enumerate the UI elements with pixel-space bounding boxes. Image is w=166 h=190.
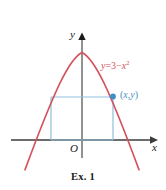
y-axis-arrowhead — [78, 33, 85, 41]
y-axis — [78, 33, 85, 159]
x-axis-label: x — [152, 142, 157, 153]
point-coordinate-label: (x,y) — [120, 90, 138, 100]
figure-caption: Ex. 1 — [0, 171, 166, 182]
equation-exponent: 2 — [126, 59, 129, 66]
curve-equation-label: y=3−x2 — [101, 61, 129, 71]
point-marker-xy — [110, 94, 116, 100]
y-axis-label: y — [70, 29, 75, 40]
origin-label: O — [70, 143, 78, 154]
figure-container: y x O y=3−x2 (x,y) Ex. 1 — [0, 0, 166, 190]
graph-canvas — [0, 0, 166, 190]
point-close-paren: ) — [135, 89, 138, 100]
